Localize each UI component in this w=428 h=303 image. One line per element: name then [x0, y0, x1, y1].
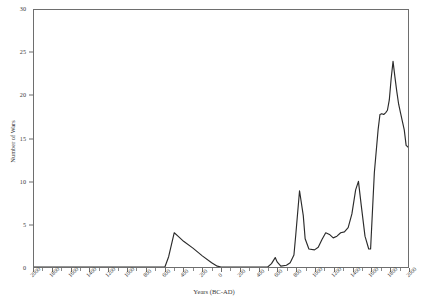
x-tick-label: 1600: [367, 266, 379, 278]
x-tick-label: 600: [161, 268, 171, 278]
x-tick-label: 2000: [29, 266, 41, 278]
x-tick-label: 400: [255, 268, 265, 278]
x-tick-label: 600: [273, 268, 283, 278]
x-minor-tick-mark: [61, 268, 62, 271]
x-minor-tick-mark: [212, 268, 213, 271]
x-tick-label: 200: [236, 268, 246, 278]
x-tick-mark: [221, 268, 222, 272]
x-tick-label: 400: [179, 268, 189, 278]
x-minor-tick-mark: [343, 268, 344, 271]
x-minor-tick-mark: [193, 268, 194, 271]
x-minor-tick-mark: [174, 268, 175, 271]
x-minor-tick-mark: [230, 268, 231, 271]
y-tick-label: 20: [20, 92, 26, 98]
x-minor-tick-mark: [155, 268, 156, 271]
y-axis-title: Number of Wars: [9, 82, 16, 202]
x-tick-label: 1800: [48, 266, 60, 278]
x-tick-label: 1600: [67, 266, 79, 278]
x-tick-label: 1200: [330, 266, 342, 278]
y-tick-label: 5: [23, 222, 26, 228]
x-minor-tick-mark: [287, 268, 288, 271]
x-minor-tick-mark: [99, 268, 100, 271]
x-axis: 2000180016001400120010008006004002000200…: [0, 268, 428, 303]
x-tick-label: 2000: [405, 266, 417, 278]
wars-line-series: [34, 61, 408, 267]
x-tick-label: 800: [292, 268, 302, 278]
x-minor-tick-mark: [324, 268, 325, 271]
x-tick-label: 0: [217, 272, 223, 278]
x-minor-tick-mark: [136, 268, 137, 271]
y-tick-label: 10: [20, 179, 26, 185]
x-minor-tick-mark: [268, 268, 269, 271]
y-tick-label: 25: [20, 49, 26, 55]
y-axis: 051015202530: [0, 0, 33, 303]
line-series-svg: [34, 10, 408, 267]
x-axis-title: Years (BC-AD): [0, 288, 428, 296]
x-minor-tick-mark: [306, 268, 307, 271]
x-tick-label: 1800: [386, 266, 398, 278]
chart-container: 051015202530 200018001600140012001000800…: [0, 0, 428, 303]
x-minor-tick-mark: [400, 268, 401, 271]
y-tick-label: 30: [20, 6, 26, 12]
x-tick-label: 1000: [123, 266, 135, 278]
x-tick-label: 1200: [104, 266, 116, 278]
x-tick-label: 200: [198, 268, 208, 278]
x-minor-tick-mark: [381, 268, 382, 271]
x-minor-tick-mark: [118, 268, 119, 271]
x-tick-label: 1000: [311, 266, 323, 278]
x-minor-tick-mark: [249, 268, 250, 271]
x-tick-label: 1400: [349, 266, 361, 278]
plot-area: [33, 9, 409, 268]
x-minor-tick-mark: [42, 268, 43, 271]
x-tick-label: 800: [142, 268, 152, 278]
y-tick-label: 15: [20, 135, 26, 141]
x-tick-label: 1400: [85, 266, 97, 278]
